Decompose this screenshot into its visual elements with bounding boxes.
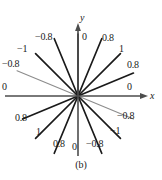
ray-value-label: −1 bbox=[17, 44, 27, 54]
ray-value-label: 0.8 bbox=[102, 33, 114, 43]
ray-line bbox=[36, 54, 78, 96]
ray-value-label: −1 bbox=[110, 126, 120, 136]
ray-value-label: 0 bbox=[72, 142, 77, 152]
ray-value-label: −0.8 bbox=[35, 32, 52, 42]
ray-value-label: 1 bbox=[119, 44, 124, 54]
ray-value-label: 0.8 bbox=[127, 60, 139, 70]
ray-value-label: 0.8 bbox=[15, 113, 27, 123]
star-ray-plot bbox=[0, 0, 162, 180]
ray-value-label: −0.8 bbox=[2, 59, 19, 69]
figure-caption: (b) bbox=[0, 159, 162, 170]
ray-value-label: 0 bbox=[2, 82, 7, 92]
figure-panel-b: 00.810.80−0.8−1−0.800.810.80−0.8−1−0.8 y… bbox=[0, 0, 162, 180]
ray-value-label: 1 bbox=[36, 127, 41, 137]
ray-value-label: −0.8 bbox=[117, 111, 134, 121]
ray-value-label: −0.8 bbox=[86, 139, 103, 149]
y-axis-arrowhead bbox=[75, 23, 81, 31]
x-axis-label: x bbox=[150, 91, 154, 101]
ray-value-label: 0 bbox=[127, 82, 132, 92]
y-axis-label: y bbox=[80, 13, 84, 23]
ray-value-label: 0.8 bbox=[53, 139, 65, 149]
ray-line bbox=[36, 96, 78, 138]
ray-value-label: 0 bbox=[82, 32, 87, 42]
ray-line bbox=[78, 54, 120, 96]
x-axis-arrowhead bbox=[140, 93, 148, 99]
